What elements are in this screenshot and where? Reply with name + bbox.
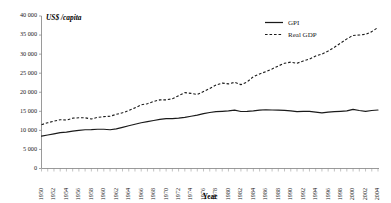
x-tick-label: 1982: [237, 188, 243, 200]
x-tick-label: 1954: [63, 188, 69, 200]
legend-label-gpi: GPI: [288, 19, 300, 27]
series-line-gpi: [42, 109, 379, 136]
x-axis-tick-marks: [42, 169, 379, 172]
y-tick-label: 30 000: [20, 50, 37, 57]
legend-label-real-gdp: Real GDP: [288, 31, 317, 39]
y-tick-label: 5 000: [23, 145, 37, 152]
x-tick-label: 2002: [362, 188, 368, 200]
chart-container: 05 00010 00015 00020 00025 00030 00035 0…: [0, 0, 391, 203]
x-axis-title: Year: [203, 193, 218, 201]
x-tick-label: 1992: [300, 188, 306, 200]
x-tick-label: 1958: [88, 188, 94, 200]
x-tick-label: 1968: [150, 188, 156, 200]
x-tick-label: 1960: [100, 188, 106, 200]
x-tick-label: 1970: [163, 188, 169, 200]
x-tick-label: 2004: [374, 188, 380, 200]
x-tick-label: 1966: [138, 188, 144, 200]
x-tick-label: 1994: [312, 188, 318, 200]
x-tick-label: 1990: [287, 188, 293, 200]
y-tick-label: 10 000: [20, 126, 37, 133]
x-tick-label: 1956: [75, 188, 81, 200]
x-tick-label: 1972: [175, 188, 181, 200]
y-tick-label: 0: [34, 164, 37, 171]
x-tick-label: 1996: [325, 188, 331, 200]
x-tick-label: 1964: [125, 188, 131, 200]
y-axis-unit-label: US$ /capita: [46, 13, 82, 22]
x-tick-label: 2000: [349, 188, 355, 200]
x-tick-label: 1984: [250, 188, 256, 200]
y-tick-label: 35 000: [20, 30, 37, 37]
x-tick-label: 1952: [50, 188, 56, 200]
series-line-real-gdp: [42, 27, 379, 124]
y-tick-label: 20 000: [20, 88, 37, 95]
x-tick-label: 1974: [187, 188, 193, 200]
x-tick-label: 1988: [275, 188, 281, 200]
y-tick-label: 40 000: [20, 11, 37, 18]
x-tick-label: 1980: [225, 188, 231, 200]
x-tick-label: 1962: [113, 188, 119, 200]
x-tick-label: 1986: [262, 188, 268, 200]
y-tick-label: 25 000: [20, 69, 37, 76]
line-chart: 05 00010 00015 00020 00025 00030 00035 0…: [0, 0, 391, 203]
x-tick-label: 1998: [337, 188, 343, 200]
y-tick-label: 15 000: [20, 107, 37, 114]
legend: GPI Real GDP: [265, 19, 317, 39]
y-axis-tick-labels: 05 00010 00015 00020 00025 00030 00035 0…: [20, 11, 37, 171]
x-tick-label: 1950: [38, 188, 44, 200]
